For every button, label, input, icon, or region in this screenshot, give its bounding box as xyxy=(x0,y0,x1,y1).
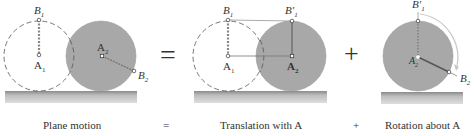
caption-plane-motion: Plane motion xyxy=(43,119,102,131)
svg-text:B1: B1 xyxy=(34,4,44,19)
caption-translation: Translation with A xyxy=(220,119,302,131)
svg-text:B′1: B′1 xyxy=(412,0,425,13)
caption-equals: = xyxy=(163,119,169,131)
svg-text:A1: A1 xyxy=(223,60,235,75)
ground xyxy=(381,92,463,104)
panel-rotation: B′1 A2 B2 xyxy=(381,0,471,104)
point-b2 xyxy=(132,69,136,73)
point-a2 xyxy=(100,54,103,57)
point-a1 xyxy=(37,53,41,57)
point-b2 xyxy=(447,70,451,74)
plane-motion-diagram: B1 A1 A2 B2 = B1 A1 B′1 A2 + xyxy=(0,0,474,136)
point-b1prime xyxy=(290,19,294,23)
panel-plane-motion: B1 A1 A2 B2 xyxy=(4,4,149,103)
caption-rotation: Rotation about A xyxy=(385,119,460,131)
ground xyxy=(194,91,327,103)
svg-text:B1: B1 xyxy=(223,4,233,19)
svg-text:B2: B2 xyxy=(460,72,471,87)
equals-operator: = xyxy=(160,39,176,70)
point-b1prime xyxy=(416,19,420,23)
svg-text:B′1: B′1 xyxy=(285,4,298,19)
point-a xyxy=(416,55,419,58)
caption-plus: + xyxy=(353,119,359,131)
point-a2 xyxy=(290,54,293,57)
plus-operator: + xyxy=(344,39,359,68)
panel-translation: B1 A1 B′1 A2 xyxy=(193,4,327,103)
point-a1 xyxy=(226,54,230,58)
ground xyxy=(5,91,137,103)
svg-text:A1: A1 xyxy=(34,59,46,74)
svg-text:B2: B2 xyxy=(138,69,149,84)
